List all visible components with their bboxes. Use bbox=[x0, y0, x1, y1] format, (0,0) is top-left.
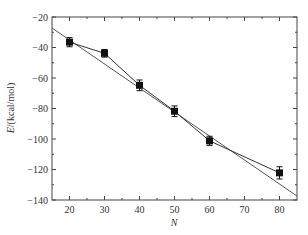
x-tick-label: 20 bbox=[65, 204, 75, 215]
x-tick-label: 80 bbox=[275, 204, 285, 215]
x-tick-label: 70 bbox=[240, 204, 250, 215]
data-point-marker bbox=[136, 82, 143, 89]
x-tick-label: 50 bbox=[170, 204, 180, 215]
data-point-marker bbox=[206, 137, 213, 144]
y-axis-label: E/(kcal/mol) bbox=[5, 83, 17, 135]
y-tick-label: −40 bbox=[32, 42, 48, 53]
data-point-marker bbox=[66, 39, 73, 46]
x-axis-label: N bbox=[170, 217, 179, 228]
chart: 20304050607080−20−40−60−80−100−120−140 N… bbox=[0, 0, 308, 235]
data-series bbox=[66, 38, 283, 179]
data-point-marker bbox=[276, 169, 283, 176]
x-tick-label: 40 bbox=[135, 204, 145, 215]
x-tick-label: 30 bbox=[100, 204, 110, 215]
y-tick-label: −20 bbox=[32, 12, 48, 23]
y-tick-label: −100 bbox=[27, 134, 48, 145]
y-tick-label: −140 bbox=[27, 195, 48, 206]
data-point-marker bbox=[101, 50, 108, 57]
tick-labels: 20304050607080−20−40−60−80−100−120−140 bbox=[27, 12, 284, 216]
y-tick-label: −80 bbox=[32, 103, 48, 114]
data-point-marker bbox=[171, 108, 178, 115]
y-tick-label: −60 bbox=[32, 73, 48, 84]
y-tick-label: −120 bbox=[27, 164, 48, 175]
x-tick-label: 60 bbox=[205, 204, 215, 215]
